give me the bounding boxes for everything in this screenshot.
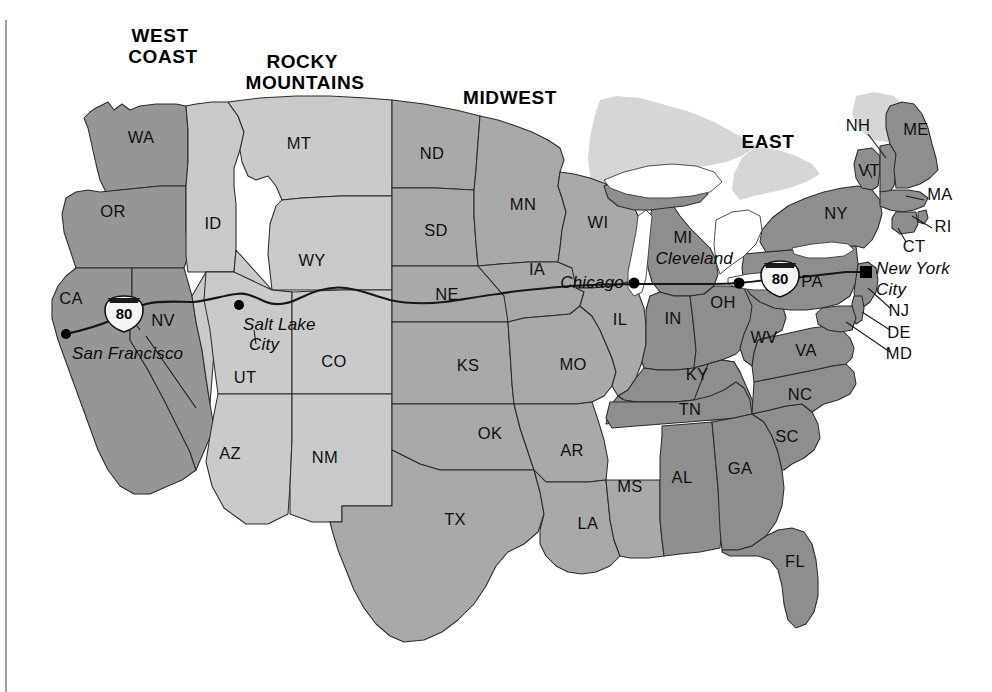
city-dot-chicago[interactable] [629,278,640,289]
state-label-ID: ID [204,214,221,232]
city-dot-new-york-city[interactable] [860,266,872,278]
city-dot-salt-lake-city[interactable] [234,300,244,310]
state-label-PA: PA [801,272,822,290]
state-label-AR: AR [560,441,584,459]
state-WY[interactable] [268,196,392,290]
state-label-NH: NH [846,116,870,134]
state-label-OH: OH [710,293,735,311]
state-label-CO: CO [321,352,346,370]
region-title-east: EAST [741,131,794,152]
state-label-WA: WA [128,128,155,146]
region-title-rocky-mountains: ROCKY MOUNTAINS [245,51,364,93]
state-label-IL: IL [613,310,627,328]
state-MA[interactable] [880,190,928,212]
city-label-san-francisco: San Francisco [72,344,183,363]
city-label-slc-line-2: City [249,335,280,354]
state-label-OK: OK [478,424,502,442]
city-dot-san-francisco[interactable] [61,329,71,339]
state-WA[interactable] [84,102,188,192]
state-label-FL: FL [785,552,805,570]
state-label-NY: NY [824,204,848,222]
city-label-nyc-line-2: City [876,280,907,299]
state-CT[interactable] [892,212,918,234]
state-label-MI: MI [674,228,693,246]
state-label-VA: VA [795,341,816,359]
city-label-chicago: Chicago [560,273,624,292]
state-label-WV: WV [750,328,777,346]
state-AL[interactable] [660,422,722,556]
state-label-GA: GA [728,459,752,477]
state-label-MA: MA [927,185,952,203]
state-label-IA: IA [529,260,545,278]
state-RI[interactable] [918,210,928,224]
state-label-VT: VT [858,161,880,179]
region-title-west-coast-line-2: COAST [128,46,198,67]
state-label-TX: TX [444,510,466,528]
us-regions-map: 80 80 WEST COAST ROCKY MOUNTAINS MIDWEST… [0,0,992,692]
city-label-nyc-line-1: New York [876,259,951,278]
state-label-NJ: NJ [889,301,910,319]
state-label-OR: OR [100,202,125,220]
state-OR[interactable] [62,186,188,268]
region-title-west-coast: WEST COAST [128,25,198,67]
state-label-MS: MS [617,477,642,495]
state-label-SD: SD [424,221,448,239]
state-label-AL: AL [672,468,693,486]
state-label-MD: MD [886,344,912,362]
state-label-NM: NM [312,448,338,466]
state-MN[interactable] [474,116,566,266]
state-label-CT: CT [903,237,926,255]
state-label-MN: MN [510,195,536,213]
state-NY[interactable] [760,186,882,252]
state-label-ND: ND [420,144,444,162]
state-label-LA: LA [578,514,599,532]
state-label-NE: NE [435,285,459,303]
state-label-MO: MO [559,355,586,373]
state-label-TN: TN [679,400,702,418]
leader-DE [862,312,890,330]
state-IN[interactable] [642,292,696,370]
state-label-MT: MT [287,134,311,152]
region-title-rocky-line-1: ROCKY [266,51,337,72]
state-label-AZ: AZ [219,444,241,462]
region-title-rocky-line-2: MOUNTAINS [245,72,364,93]
state-label-KS: KS [457,356,480,374]
state-CO[interactable] [292,290,392,394]
state-label-CA: CA [59,289,83,307]
region-title-west-coast-line-1: WEST [131,25,188,46]
state-KS[interactable] [392,322,514,404]
city-dot-cleveland[interactable] [734,278,745,289]
state-label-KY: KY [686,365,709,383]
state-label-NV: NV [151,311,175,329]
map-canvas: 80 80 WEST COAST ROCKY MOUNTAINS MIDWEST… [0,0,992,692]
state-label-WY: WY [298,251,325,269]
region-rocky-mountains[interactable] [186,96,392,524]
shield-label-80-west: 80 [116,305,133,322]
state-ID[interactable] [186,102,244,272]
state-NM[interactable] [290,394,392,522]
shield-label-80-east: 80 [772,270,789,287]
state-label-UT: UT [234,368,257,386]
state-label-DE: DE [887,323,911,341]
city-label-new-york-city: New York City [876,259,955,299]
city-label-cleveland: Cleveland [656,249,734,268]
state-label-SC: SC [775,427,799,445]
state-label-RI: RI [934,217,951,235]
state-label-IN: IN [664,309,681,327]
city-label-slc-line-1: Salt Lake [243,315,316,334]
state-label-WI: WI [588,213,609,231]
state-label-NC: NC [788,385,812,403]
region-title-midwest: MIDWEST [463,87,557,108]
state-label-ME: ME [903,120,928,138]
